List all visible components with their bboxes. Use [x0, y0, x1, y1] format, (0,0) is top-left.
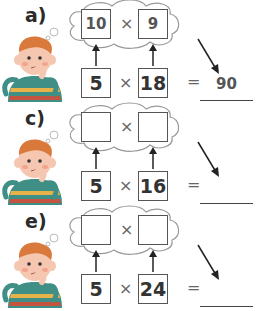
times-sign: ×: [120, 14, 133, 33]
equals-sign: =: [187, 72, 200, 91]
times-sign: ×: [120, 117, 133, 136]
times-sign: ×: [120, 220, 133, 239]
arrow-up-icon: [148, 250, 158, 272]
answer-value[interactable]: 90: [200, 75, 253, 93]
problem-label: e): [25, 210, 47, 232]
answer-line[interactable]: [200, 203, 253, 204]
thinking-child-illustration: [2, 230, 68, 308]
thinking-child-illustration: [2, 127, 68, 205]
answer-line[interactable]: [200, 100, 253, 101]
answer-line[interactable]: [200, 306, 253, 307]
factor-box-left: 5: [81, 171, 111, 201]
problem-label: c): [25, 107, 45, 129]
problem-a: a) 10 × 9 5 × 18 = 90: [0, 0, 260, 104]
thought-box-left[interactable]: [81, 112, 111, 142]
problem-e: e) × 5 × 24 =: [0, 206, 260, 310]
equals-sign: =: [187, 278, 200, 297]
arrow-up-icon: [91, 147, 101, 169]
factor-box-right: 16: [138, 171, 168, 201]
thought-box-left[interactable]: 10: [81, 9, 111, 39]
times-sign: ×: [119, 176, 132, 195]
thought-box-right[interactable]: [138, 112, 168, 142]
factor-box-right: 18: [138, 68, 168, 98]
times-sign: ×: [119, 279, 132, 298]
times-sign: ×: [119, 73, 132, 92]
arrow-down-right-icon: [197, 141, 221, 177]
arrow-up-icon: [91, 250, 101, 272]
thinking-child-illustration: [2, 24, 68, 102]
thought-box-right[interactable]: [138, 215, 168, 245]
problem-label: a): [25, 4, 47, 26]
arrow-down-right-icon: [197, 244, 221, 280]
thought-box-left[interactable]: [81, 215, 111, 245]
arrow-up-icon: [148, 44, 158, 66]
factor-box-right: 24: [138, 274, 168, 304]
thought-box-right[interactable]: 9: [138, 9, 168, 39]
factor-box-left: 5: [81, 68, 111, 98]
factor-box-left: 5: [81, 274, 111, 304]
problem-c: c) × 5 × 16 =: [0, 103, 260, 207]
arrow-up-icon: [148, 147, 158, 169]
arrow-up-icon: [91, 44, 101, 66]
arrow-down-right-icon: [197, 38, 221, 74]
equals-sign: =: [187, 175, 200, 194]
